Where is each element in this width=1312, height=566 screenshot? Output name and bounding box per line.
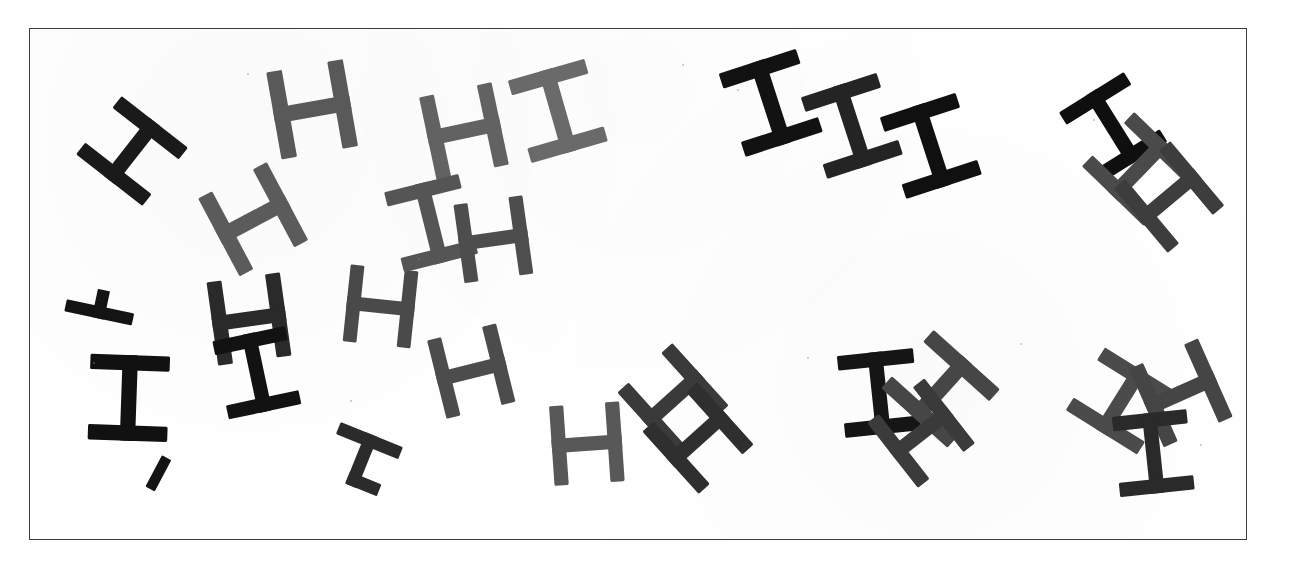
- glyph-i-7: [208, 322, 306, 424]
- glyph-i-30: [1107, 405, 1198, 501]
- glyph-h-6: [200, 267, 298, 370]
- glyph-h-9: [337, 260, 425, 352]
- glyph-h-27: [1106, 134, 1231, 260]
- paper-speck-10: [350, 400, 352, 402]
- glyph-i-13: [379, 169, 483, 277]
- glyph-h-24: [860, 372, 982, 495]
- glyph-h-11: [412, 77, 515, 185]
- paper-grain-overlay: [30, 29, 1246, 539]
- glyph-h-10: [259, 54, 365, 165]
- glyph-h-18: [635, 375, 760, 501]
- glyph-i-12: [503, 54, 613, 168]
- stimulus-canvas: [0, 0, 1312, 566]
- glyph-h-17: [610, 336, 735, 462]
- glyph-t-8: [310, 416, 408, 517]
- glyph-h-28: [1059, 340, 1183, 462]
- glyph-i-3: [84, 350, 175, 447]
- stimulus-frame: [29, 28, 1247, 540]
- glyph-i-22: [832, 344, 925, 442]
- glyph-h-14: [447, 191, 539, 288]
- glyph-i-20: [796, 68, 908, 184]
- glyph-i-19: [714, 44, 829, 163]
- paper-speck-1: [247, 73, 249, 75]
- paper-speck-6: [418, 258, 420, 260]
- glyph-i-25: [1053, 66, 1172, 187]
- glyph-h-26: [1075, 105, 1203, 233]
- glyph-h-5: [190, 155, 315, 283]
- glyph-h-29: [1122, 332, 1240, 453]
- paper-speck-8: [1020, 343, 1022, 345]
- glyph-fragment-4: [116, 440, 199, 525]
- paper-speck-3: [737, 89, 739, 91]
- paper-speck-9: [1200, 444, 1202, 446]
- glyph-h-15: [420, 318, 521, 424]
- glyph-h-1: [69, 89, 194, 213]
- glyph-h-2: [60, 247, 148, 332]
- glyph-h-16: [543, 398, 631, 491]
- glyph-h-23: [874, 322, 1007, 455]
- paper-speck-7: [807, 357, 809, 359]
- paper-speck-2: [682, 64, 684, 66]
- paper-speck-4: [1093, 119, 1095, 121]
- paper-speck-5: [93, 362, 95, 364]
- glyph-i-21: [875, 88, 987, 204]
